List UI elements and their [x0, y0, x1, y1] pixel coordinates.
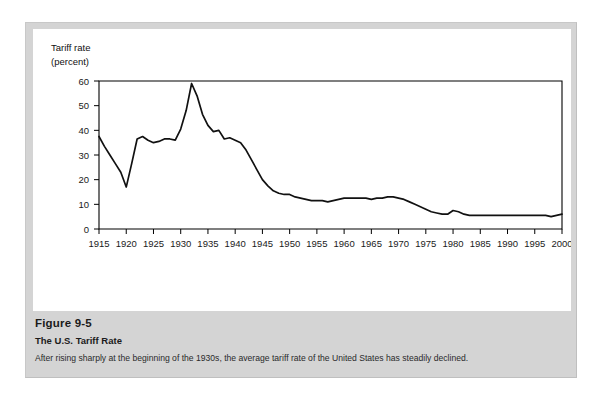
chart-panel: Tariff rate (percent) 0102030405060 1915…: [33, 29, 571, 311]
x-tick-label: 1915: [88, 238, 109, 249]
x-tick-label: 1985: [470, 238, 491, 249]
y-tick-label: 60: [78, 76, 89, 87]
figure-caption: Figure 9-5 The U.S. Tariff Rate After ri…: [33, 317, 571, 373]
figure-card: Tariff rate (percent) 0102030405060 1915…: [25, 22, 577, 378]
y-tick-label: 0: [84, 224, 89, 235]
x-tick-label: 1930: [170, 238, 191, 249]
y-tick-label: 30: [78, 150, 89, 161]
x-tick-label: 1960: [334, 238, 355, 249]
y-tick-label: 20: [78, 174, 89, 185]
x-axis-ticks: 1915192019251930193519401945195019551960…: [88, 229, 571, 249]
x-tick-label: 2000: [551, 238, 571, 249]
data-series-line: [99, 83, 562, 216]
x-tick-label: 1970: [388, 238, 409, 249]
figure-subtitle: The U.S. Tariff Rate: [35, 335, 571, 346]
figure-number: Figure 9-5: [35, 317, 571, 329]
x-tick-label: 1990: [497, 238, 518, 249]
x-tick-label: 1980: [442, 238, 463, 249]
tariff-rate-line-chart: Tariff rate (percent) 0102030405060 1915…: [33, 29, 571, 311]
plot-frame: [99, 81, 562, 229]
y-axis-title-line1: Tariff rate: [51, 42, 90, 53]
x-tick-label: 1955: [306, 238, 327, 249]
x-tick-label: 1950: [279, 238, 300, 249]
x-tick-label: 1935: [197, 238, 218, 249]
x-tick-label: 1945: [252, 238, 273, 249]
y-axis-title-line2: (percent): [51, 56, 89, 67]
x-tick-label: 1995: [524, 238, 545, 249]
y-axis-ticks: 0102030405060: [78, 76, 99, 235]
x-tick-label: 1925: [143, 238, 164, 249]
x-tick-label: 1965: [361, 238, 382, 249]
y-tick-label: 10: [78, 199, 89, 210]
y-tick-label: 50: [78, 100, 89, 111]
data-series-layer: [99, 83, 562, 216]
x-tick-label: 1975: [415, 238, 436, 249]
y-tick-label: 40: [78, 125, 89, 136]
x-tick-label: 1920: [116, 238, 137, 249]
x-tick-label: 1940: [225, 238, 246, 249]
figure-description: After rising sharply at the beginning of…: [35, 353, 571, 364]
